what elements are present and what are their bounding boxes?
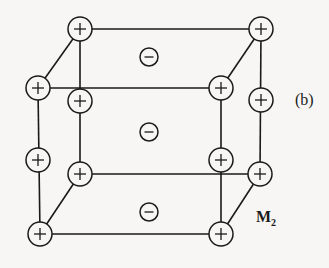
site-label-subscript: 2 xyxy=(271,217,276,228)
anion-anion-top xyxy=(140,48,158,66)
cation-back-top-right xyxy=(249,17,273,41)
cation-front-mid-left xyxy=(26,148,50,172)
panel-label: (b) xyxy=(295,91,314,109)
cation-front-bottom-left xyxy=(28,222,52,246)
anion-anion-bottom xyxy=(140,203,158,221)
cation-front-bottom-right xyxy=(209,222,233,246)
cation-back-bottom-right xyxy=(248,162,272,186)
site-label: M2 xyxy=(256,208,276,228)
cation-back-bottom-left xyxy=(68,162,92,186)
lattice-diagram xyxy=(0,0,329,268)
anion-sites xyxy=(140,48,158,221)
anion-anion-middle xyxy=(140,123,158,141)
crystal-structure-figure: (b) M2 xyxy=(0,0,329,268)
cation-back-mid-right xyxy=(249,88,273,112)
cation-front-top-left xyxy=(26,76,50,100)
cation-back-top-left xyxy=(68,17,92,41)
cation-front-top-right xyxy=(209,76,233,100)
cation-front-mid-right xyxy=(209,148,233,172)
site-label-main: M xyxy=(256,208,271,225)
cation-back-mid-left xyxy=(68,89,92,113)
